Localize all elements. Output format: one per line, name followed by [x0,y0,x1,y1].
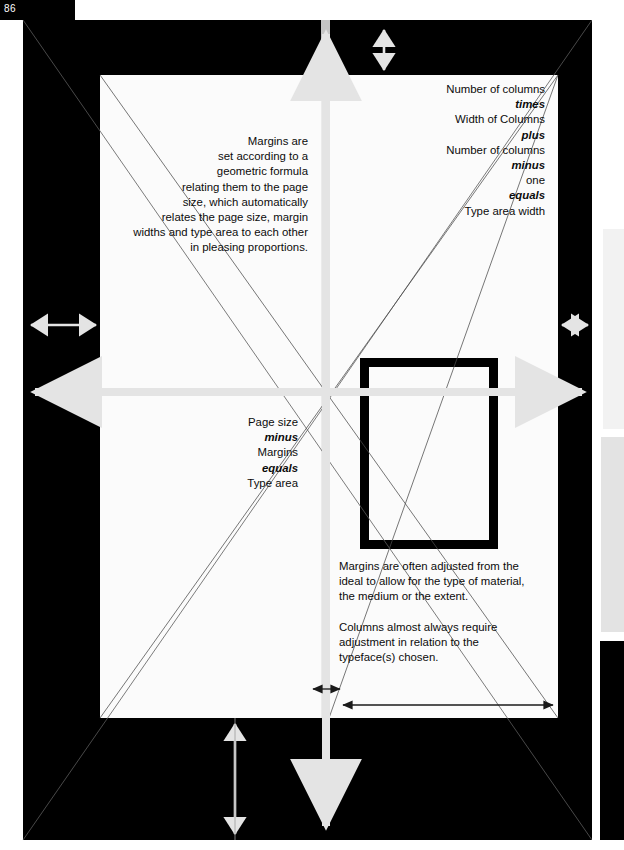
line-emphasis: minus [110,430,298,445]
text-page-size-formula: Page size minus Margins equals Type area [110,415,298,491]
line: Margins are often adjusted from the [339,559,557,574]
adjacent-page-strip-black [600,641,624,840]
line: relating them to the page [36,180,308,195]
line-emphasis: times [300,97,545,112]
text-margins-formula: Margins are set according to a geometric… [36,134,308,256]
line: Number of columns [300,143,545,158]
line: relates the page size, margin [36,210,308,225]
line: one [300,173,545,188]
line-emphasis: minus [300,158,545,173]
line: Margins [110,445,298,460]
line: typeface(s) chosen. [339,650,557,665]
text-columns-formula: Number of columns times Width of Columns… [300,82,545,219]
adjacent-page-strip-gray-light [603,229,624,429]
text-note-columns: Columns almost always require adjustment… [339,620,557,666]
line: set according to a [36,149,308,164]
line: Width of Columns [300,112,545,127]
line: adjustment in relation to the [339,635,557,650]
line: size, which automatically [36,195,308,210]
line: in pleasing proportions. [36,240,308,255]
adjacent-page-strip-gray [601,437,624,632]
line: Number of columns [300,82,545,97]
line: Columns almost always require [339,620,557,635]
text-note-margins: Margins are often adjusted from the idea… [339,559,557,605]
line: geometric formula [36,164,308,179]
line: Margins are [36,134,308,149]
line: widths and type area to each other [36,225,308,240]
line-emphasis: equals [300,188,545,203]
line: Type area [110,476,298,491]
page-number: 86 [4,1,34,17]
line-emphasis: equals [110,461,298,476]
line-emphasis: plus [300,128,545,143]
line: ideal to allow for the type of material, [339,574,557,589]
line: Type area width [300,204,545,219]
adjacent-page-strip-white [592,20,624,225]
line: the medium or the extent. [339,589,557,604]
line: Page size [110,415,298,430]
